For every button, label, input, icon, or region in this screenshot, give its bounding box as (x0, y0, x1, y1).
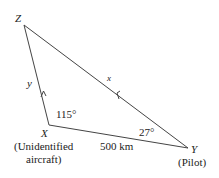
side-xz (24, 25, 49, 125)
angle-y-label: 27° (139, 126, 154, 138)
side-zy (24, 25, 188, 148)
vertex-y-label: Y (191, 143, 199, 155)
vertex-x-sublabel-1: (Unidentified (14, 140, 74, 153)
arrow-xz-icon (41, 91, 46, 97)
angle-x-label: 115° (56, 108, 77, 120)
triangle-diagram: Z X (Unidentified aircraft) Y (Pilot) y … (0, 0, 219, 178)
vertex-x-sublabel-2: aircraft) (26, 153, 62, 166)
vertex-y-sublabel: (Pilot) (178, 156, 206, 169)
side-xy-label: 500 km (100, 140, 134, 152)
side-zy-label: x (106, 73, 111, 83)
vertex-x-label: X (40, 127, 49, 139)
arrow-zy-icon (117, 91, 120, 99)
vertex-z-label: Z (15, 12, 22, 24)
side-xz-label: y (26, 77, 32, 89)
